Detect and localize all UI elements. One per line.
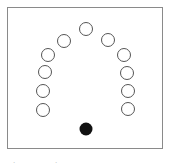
open-circle xyxy=(39,66,52,79)
open-circle xyxy=(122,103,135,116)
open-circle xyxy=(42,49,55,62)
open-circle xyxy=(58,35,71,48)
filled-circle xyxy=(80,123,93,136)
open-circle xyxy=(121,67,134,80)
caption-fragment: . xyxy=(55,156,57,165)
open-circle xyxy=(122,85,135,98)
open-circle xyxy=(80,23,93,36)
open-circle xyxy=(102,34,115,47)
open-circle xyxy=(37,85,50,98)
open-circle xyxy=(118,49,131,62)
open-circle xyxy=(37,104,50,117)
circle-arc-diagram xyxy=(0,0,172,165)
caption-fragment: . xyxy=(13,156,15,165)
